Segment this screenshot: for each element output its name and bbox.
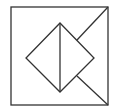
geometric-diagram — [0, 0, 116, 111]
